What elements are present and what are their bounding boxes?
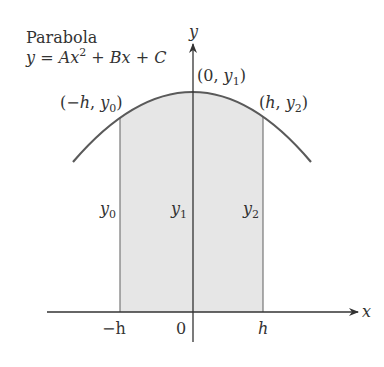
tick-h: h bbox=[258, 319, 268, 338]
tick-zero: 0 bbox=[176, 319, 186, 338]
point-label-top: (0, y1) bbox=[197, 66, 246, 88]
point-label-right: (h, y2) bbox=[259, 93, 308, 115]
shaded-area bbox=[120, 92, 263, 312]
parabola-diagram: y x −h 0 h Parabola y = Ax2 + Bx + C (−h… bbox=[0, 0, 384, 367]
ordinate-label-y0: y0 bbox=[99, 199, 116, 221]
point-label-left: (−h, y0) bbox=[60, 93, 122, 115]
diagram-title: Parabola bbox=[26, 28, 98, 47]
y-axis-label: y bbox=[188, 22, 199, 41]
parabola-equation: y = Ax2 + Bx + C bbox=[25, 46, 166, 67]
x-axis-label: x bbox=[362, 302, 371, 321]
tick-neg-h: −h bbox=[102, 319, 126, 338]
